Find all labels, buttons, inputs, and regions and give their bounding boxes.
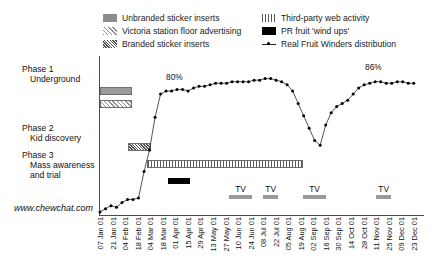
series-point bbox=[121, 201, 124, 204]
series-point bbox=[264, 77, 267, 80]
x-tick-label: 19 Aug 01 bbox=[298, 217, 310, 275]
x-tick-label: 18 Mar 01 bbox=[160, 217, 172, 275]
unbranded-sticker-inserts-bar bbox=[100, 87, 132, 95]
series-point bbox=[242, 80, 245, 83]
legend-item-third-party-web-activity: Third-party web activity bbox=[262, 12, 396, 24]
phase-label-2: Phase 2 Kid discovery bbox=[22, 123, 81, 143]
x-tick-label: 23 Dec 01 bbox=[411, 217, 423, 275]
legend-label: Victoria station floor advertising bbox=[122, 27, 241, 36]
series-point bbox=[143, 170, 146, 173]
series-point bbox=[126, 198, 129, 201]
legend-item-branded-sticker-inserts: Branded sticker inserts bbox=[103, 38, 241, 50]
series-point bbox=[407, 82, 410, 85]
x-tick-label: 04 Feb 01 bbox=[122, 217, 134, 275]
series-point bbox=[319, 144, 322, 147]
series-point bbox=[220, 82, 223, 85]
diagonal-light-hatch-swatch-icon bbox=[103, 27, 117, 35]
phase-subtitle-2: and trial bbox=[22, 170, 94, 180]
phase-label-1: Phase 1 Underground bbox=[22, 64, 80, 84]
tv-burst-bar bbox=[303, 195, 326, 199]
legend-item-victoria-station-floor-advertising: Victoria station floor advertising bbox=[103, 25, 241, 37]
series-point bbox=[291, 90, 294, 93]
pr-fruit-wind-ups-bar bbox=[168, 178, 191, 184]
tv-label: TV bbox=[376, 185, 391, 194]
series-point bbox=[297, 102, 300, 105]
legend-label: PR fruit 'wind ups' bbox=[281, 27, 349, 36]
legend-item-pr-fruit-wind-ups: PR fruit 'wind ups' bbox=[262, 25, 396, 37]
series-point bbox=[341, 102, 344, 105]
x-tick-label: 29 Apr 01 bbox=[197, 217, 209, 275]
tv-burst-4: TV bbox=[376, 185, 391, 199]
series-point bbox=[357, 86, 360, 89]
phase-title: Phase 3 bbox=[22, 150, 54, 160]
series-point bbox=[385, 82, 388, 85]
site-url-label: www.chewchat.com bbox=[14, 203, 93, 213]
x-tick-label: 25 Nov 01 bbox=[386, 217, 398, 275]
series-point bbox=[247, 80, 250, 83]
x-tick-label: 01 Apr 01 bbox=[172, 217, 184, 275]
callout-86-percent: 86% bbox=[365, 62, 382, 72]
x-tick-label: 13 May 01 bbox=[210, 217, 222, 275]
x-tick-label: 28 Oct 01 bbox=[361, 217, 373, 275]
series-point bbox=[231, 80, 234, 83]
x-axis-tick-labels: 07 Jan 0121 Jan 0104 Feb 0118 Feb 0104 M… bbox=[0, 217, 432, 276]
series-point bbox=[401, 80, 404, 83]
series-point bbox=[181, 88, 184, 91]
legend-label: Third-party web activity bbox=[281, 14, 369, 23]
legend-label: Unbranded sticker inserts bbox=[122, 14, 219, 23]
legend-label: Branded sticker inserts bbox=[122, 40, 209, 49]
series-point bbox=[159, 93, 162, 96]
phase-title: Phase 2 bbox=[22, 123, 54, 133]
series-point bbox=[346, 99, 349, 102]
legend-column-left: Unbranded sticker inserts Victoria stati… bbox=[103, 12, 241, 51]
series-point bbox=[275, 79, 278, 82]
series-point bbox=[363, 83, 366, 86]
series-point bbox=[192, 86, 195, 89]
series-point bbox=[236, 80, 239, 83]
tv-burst-bar bbox=[376, 195, 391, 199]
series-point bbox=[203, 85, 206, 88]
series-point bbox=[170, 90, 173, 93]
victoria-station-floor-advertising-bar bbox=[100, 100, 132, 108]
solid-gray-swatch-icon bbox=[103, 14, 117, 22]
line-marker-swatch-icon bbox=[262, 40, 276, 48]
series-point bbox=[269, 77, 272, 80]
chart-legend: Unbranded sticker inserts Victoria stati… bbox=[0, 12, 432, 52]
branded-sticker-inserts-bar bbox=[128, 143, 151, 151]
solid-black-swatch-icon bbox=[262, 27, 276, 35]
series-point bbox=[396, 80, 399, 83]
series-point bbox=[137, 196, 140, 199]
callout-80-percent: 80% bbox=[166, 72, 183, 82]
series-point bbox=[330, 111, 333, 114]
series-point bbox=[209, 83, 212, 86]
series-point bbox=[154, 116, 157, 119]
x-tick-label: 09 Dec 01 bbox=[398, 217, 410, 275]
series-point bbox=[110, 204, 113, 207]
x-tick-label: 24 Jun 01 bbox=[248, 217, 260, 275]
series-point bbox=[176, 88, 179, 91]
series-point bbox=[390, 82, 393, 85]
x-tick-label: 30 Sep 01 bbox=[335, 217, 347, 275]
series-point bbox=[302, 114, 305, 117]
series-point bbox=[324, 124, 327, 127]
phase-label-3: Phase 3 Mass awareness and trial bbox=[22, 150, 94, 180]
series-point bbox=[308, 127, 311, 130]
series-point bbox=[214, 82, 217, 85]
series-point bbox=[374, 80, 377, 83]
phase-subtitle: Kid discovery bbox=[22, 133, 81, 143]
y-axis-line bbox=[99, 56, 100, 216]
series-point bbox=[198, 85, 201, 88]
series-point bbox=[187, 90, 190, 93]
x-tick-label: 07 Jan 01 bbox=[97, 217, 109, 275]
x-tick-label: 14 Oct 01 bbox=[348, 217, 360, 275]
series-point bbox=[286, 83, 289, 86]
series-point bbox=[313, 139, 316, 142]
x-tick-label: 04 Mar 01 bbox=[147, 217, 159, 275]
chart-page: Unbranded sticker inserts Victoria stati… bbox=[0, 0, 432, 276]
series-point bbox=[368, 82, 371, 85]
x-tick-label: 22 Jul 01 bbox=[273, 217, 285, 275]
tv-burst-3: TV bbox=[303, 185, 326, 199]
tv-label: TV bbox=[263, 185, 278, 194]
x-tick-label: 18 Feb 01 bbox=[135, 217, 147, 275]
series-point bbox=[132, 198, 135, 201]
